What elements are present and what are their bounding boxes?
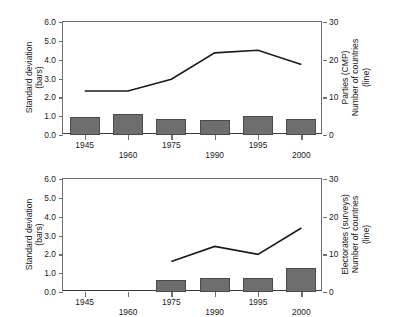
bottom-plot-area: 0.01.02.03.04.05.06.00102030194519601975… — [62, 178, 322, 291]
x-axis-tick — [301, 292, 302, 297]
y-axis-left-tick — [59, 60, 63, 61]
bar — [286, 119, 316, 135]
x-axis-tick-label: 1995 — [249, 141, 268, 149]
y-axis-left-tick — [59, 217, 63, 218]
y-axis-right-tick-label: 0 — [329, 131, 334, 139]
y-axis-left-tick-label: 6.0 — [44, 18, 56, 26]
y-axis-left-tick-label: 0.0 — [44, 131, 56, 139]
top-right-axis-title-line1: Parties (CMP) — [340, 51, 350, 105]
y-axis-left-tick-label: 4.0 — [44, 55, 56, 63]
bar — [243, 278, 273, 292]
top-right-axis-title-line3: (line) — [361, 68, 371, 87]
y-axis-right-tick-label: 0 — [329, 288, 334, 296]
x-axis-tick — [301, 135, 302, 140]
bottom-right-axis-title-line1: Electorates (surveys) — [340, 194, 350, 275]
y-axis-left-tick-label: 6.0 — [44, 175, 56, 183]
bar — [70, 117, 100, 135]
bottom-line-series — [63, 179, 323, 292]
top-left-axis-title: Standard deviation (bars) — [24, 21, 45, 134]
bottom-right-axis-title: Electorates (surveys) Number of countrie… — [340, 178, 371, 291]
y-axis-left-tick — [59, 79, 63, 80]
top-line-series — [63, 22, 323, 135]
bar — [156, 280, 186, 292]
bottom-left-axis-title-line1: Standard deviation — [24, 199, 34, 271]
y-axis-right-tick-label: 10 — [329, 93, 338, 101]
y-axis-right-tick — [323, 179, 327, 180]
chart-panel-bottom: Standard deviation (bars) Electorates (s… — [0, 157, 398, 314]
bottom-left-axis-title: Standard deviation (bars) — [24, 178, 45, 291]
y-axis-right-tick — [323, 254, 327, 255]
y-axis-right-tick — [323, 60, 327, 61]
y-axis-left-tick-label: 2.0 — [44, 250, 56, 258]
x-axis-tick-label: 1975 — [162, 141, 181, 149]
y-axis-left-tick-label: 2.0 — [44, 93, 56, 101]
x-axis-tick — [215, 135, 216, 140]
y-axis-left-tick — [59, 22, 63, 23]
y-axis-left-tick — [59, 273, 63, 274]
x-axis-tick — [128, 135, 129, 140]
x-axis-tick-label: 2000 — [292, 308, 311, 316]
x-axis-tick-label: 1990 — [205, 308, 224, 316]
y-axis-right-tick — [323, 292, 327, 293]
y-axis-left-tick-label: 5.0 — [44, 37, 56, 45]
y-axis-left-tick-label: 3.0 — [44, 74, 56, 82]
bottom-right-axis-title-line2: Number of countries — [350, 196, 360, 273]
y-axis-right-tick — [323, 22, 327, 23]
y-axis-left-tick-label: 4.0 — [44, 212, 56, 220]
y-axis-left-tick — [59, 116, 63, 117]
y-axis-left-tick-label: 5.0 — [44, 194, 56, 202]
bar — [156, 119, 186, 135]
y-axis-right-tick — [323, 217, 327, 218]
x-axis-tick-label: 1945 — [75, 298, 94, 306]
bottom-right-axis-title-line3: (line) — [361, 225, 371, 244]
top-left-axis-title-line1: Standard deviation — [24, 42, 34, 114]
x-axis-tick-label: 1960 — [119, 308, 138, 316]
y-axis-left-tick — [59, 41, 63, 42]
x-axis-tick-label: 1975 — [162, 298, 181, 306]
y-axis-left-tick — [59, 135, 63, 136]
top-right-axis-title: Parties (CMP) Number of countries (line) — [340, 21, 371, 134]
bar — [286, 268, 316, 292]
y-axis-left-tick-label: 1.0 — [44, 269, 56, 277]
bar — [243, 116, 273, 135]
y-axis-left-tick — [59, 198, 63, 199]
y-axis-right-tick-label: 20 — [329, 212, 338, 220]
y-axis-right-tick-label: 10 — [329, 250, 338, 258]
y-axis-left-tick — [59, 179, 63, 180]
y-axis-left-tick-label: 3.0 — [44, 231, 56, 239]
bar — [200, 278, 230, 292]
y-axis-right-tick — [323, 97, 327, 98]
y-axis-left-tick — [59, 292, 63, 293]
bottom-left-axis-title-line2: (bars) — [34, 223, 44, 245]
top-plot-area: 0.01.02.03.04.05.06.00102030194519601975… — [62, 21, 322, 134]
x-axis-tick — [128, 292, 129, 297]
bar — [113, 114, 143, 135]
top-left-axis-title-line2: (bars) — [34, 66, 44, 88]
y-axis-left-tick — [59, 236, 63, 237]
y-axis-left-tick — [59, 254, 63, 255]
y-axis-left-tick-label: 0.0 — [44, 288, 56, 296]
top-right-axis-title-line2: Number of countries — [350, 39, 360, 116]
y-axis-right-tick-label: 30 — [329, 175, 338, 183]
bar — [200, 120, 230, 135]
y-axis-right-tick — [323, 135, 327, 136]
x-axis-tick-label: 1995 — [249, 298, 268, 306]
y-axis-left-tick-label: 1.0 — [44, 112, 56, 120]
y-axis-right-tick-label: 30 — [329, 18, 338, 26]
chart-panel-top: Standard deviation (bars) Parties (CMP) … — [0, 0, 398, 157]
y-axis-left-tick — [59, 97, 63, 98]
x-axis-tick-label: 1945 — [75, 141, 94, 149]
x-axis-tick — [215, 292, 216, 297]
y-axis-right-tick-label: 20 — [329, 55, 338, 63]
